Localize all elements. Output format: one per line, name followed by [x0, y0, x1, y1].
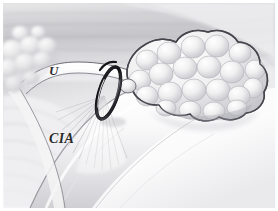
anatomical-illustration-figure: U CIA	[0, 0, 278, 211]
loop-shadow	[100, 117, 126, 127]
illustration-canvas	[0, 0, 278, 211]
label-ureter: U	[49, 63, 59, 79]
label-common-iliac-artery: CIA	[49, 131, 74, 147]
accessory-node	[120, 79, 136, 93]
